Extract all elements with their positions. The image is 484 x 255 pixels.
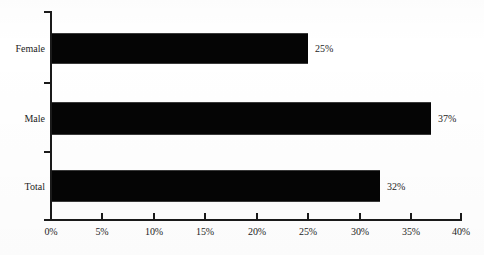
bar-male	[52, 102, 431, 135]
x-tick-label-5: 5%	[95, 226, 108, 237]
x-tick-label-40: 40%	[452, 226, 470, 237]
x-tick-10	[153, 213, 155, 220]
x-tick-label-35: 35%	[402, 226, 420, 237]
bar-female	[52, 33, 308, 64]
x-tick-0	[50, 213, 52, 220]
x-tick-25	[307, 213, 309, 220]
category-label-total: Total	[25, 181, 45, 192]
x-tick-15	[204, 213, 206, 220]
x-tick-label-0: 0%	[44, 226, 57, 237]
x-tick-label-20: 20%	[248, 226, 266, 237]
bar-value-male: 37%	[438, 113, 456, 124]
y-axis-tick-1	[44, 82, 51, 84]
x-tick-20	[256, 213, 258, 220]
x-tick-5	[101, 213, 103, 220]
x-tick-40	[460, 213, 462, 220]
category-label-male: Male	[24, 113, 45, 124]
x-tick-30	[359, 213, 361, 220]
x-tick-35	[410, 213, 412, 220]
x-tick-label-15: 15%	[196, 226, 214, 237]
bar-value-total: 32%	[387, 181, 405, 192]
x-tick-label-25: 25%	[299, 226, 317, 237]
category-label-female: Female	[16, 43, 45, 54]
y-axis-top-tick	[44, 11, 51, 13]
bar-value-female: 25%	[315, 43, 333, 54]
bar-total	[52, 170, 380, 202]
y-axis-tick-2	[44, 151, 51, 153]
x-tick-label-30: 30%	[351, 226, 369, 237]
x-tick-label-10: 10%	[145, 226, 163, 237]
bar-chart: 0% 5% 10% 15% 20% 25% 30% 35% 40% Female…	[0, 0, 484, 255]
